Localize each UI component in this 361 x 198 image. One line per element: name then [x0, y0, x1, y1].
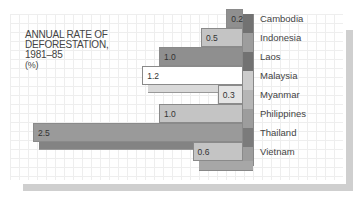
bar-side-face	[243, 14, 254, 33]
bar-malaysia: 1.2	[142, 66, 243, 85]
value-label: 0.2	[231, 14, 243, 24]
bar-thailand: 2.5	[33, 123, 243, 142]
bar-side-face	[243, 33, 254, 52]
bar-cambodia: 0.2	[226, 9, 243, 28]
bar-philippines: 1.0	[159, 104, 243, 123]
bar-bottom-face	[199, 161, 253, 171]
bar-side-face	[243, 128, 254, 147]
bar-bottom-face	[148, 85, 224, 93]
category-label: Philippines	[260, 108, 306, 119]
bar-laos: 1.0	[159, 47, 243, 66]
bar-side-face	[243, 52, 254, 71]
bar-myanmar: 0.3	[218, 85, 243, 104]
value-label: 2.5	[38, 128, 50, 138]
bar-side-face	[243, 90, 254, 109]
chart-title: ANNUAL RATE OF DEFORESTATION, 1981–85 (%…	[25, 30, 109, 70]
category-label: Vietnam	[260, 146, 295, 157]
category-label: Laos	[260, 51, 281, 62]
value-label: 1.0	[164, 52, 176, 62]
bar-side-face	[243, 109, 254, 128]
category-label: Cambodia	[260, 13, 303, 24]
value-label: 0.5	[206, 33, 218, 43]
panel-shadow-bottom	[23, 184, 353, 191]
panel-shadow-right	[346, 30, 353, 191]
bar-indonesia: 0.5	[201, 28, 243, 47]
value-label: 0.6	[198, 147, 210, 157]
category-label: Malaysia	[260, 70, 298, 81]
category-label: Myanmar	[260, 89, 300, 100]
bar-side-face	[243, 71, 254, 90]
bar-vietnam: 0.6	[193, 142, 243, 161]
value-label: 0.3	[223, 90, 235, 100]
category-label: Thailand	[260, 127, 296, 138]
bar-bottom-face	[39, 142, 199, 150]
category-label: Indonesia	[260, 32, 301, 43]
value-label: 1.2	[147, 71, 159, 81]
value-label: 1.0	[164, 109, 176, 119]
